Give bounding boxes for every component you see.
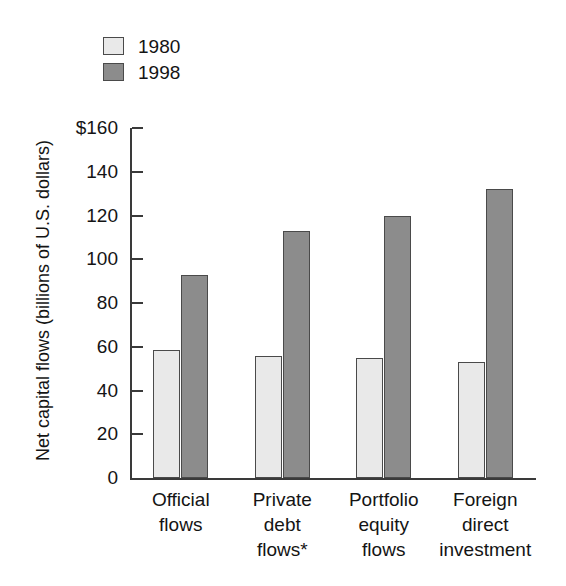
y-axis-tick-label: 40 [8,381,118,400]
x-axis-label-line: flows [333,537,435,562]
bar-1998-0 [181,275,208,478]
x-axis-label-0: Officialflows [130,487,232,537]
y-axis-tick-label: 80 [8,293,118,312]
bar-1980-1 [255,356,282,479]
bar-group [356,128,411,478]
legend-swatch-1998-icon [103,63,124,81]
bar-group [255,128,310,478]
bar-group [153,128,208,478]
y-axis-tick-label: 140 [8,162,118,181]
legend-item-1998: 1998 [103,59,283,85]
x-axis-label-line: Foreign [435,487,537,512]
x-axis-category-labels: OfficialflowsPrivatedebtflows*Portfolioe… [130,487,536,583]
x-axis-label-line: flows* [232,537,334,562]
y-axis-tick-label: $160 [8,118,118,137]
x-axis-label-line: Official [130,487,232,512]
x-axis-label-1: Privatedebtflows* [232,487,334,562]
y-axis-tick-label: 0 [8,468,118,487]
bar-1980-2 [356,358,383,478]
x-axis-label-line: flows [130,512,232,537]
y-axis-tick-label: 60 [8,337,118,356]
x-axis-label-3: Foreigndirectinvestment [435,487,537,562]
bar-1998-3 [486,189,513,478]
y-axis-tick-label: 120 [8,206,118,225]
x-axis-label-line: debt [232,512,334,537]
chart-legend: 1980 1998 [103,33,283,85]
x-axis-label-line: Private [232,487,334,512]
y-axis-tick-label: 20 [8,424,118,443]
bar-1980-0 [153,350,180,478]
x-axis-label-line: equity [333,512,435,537]
x-axis-label-2: Portfolioequityflows [333,487,435,562]
bar-1998-1 [283,231,310,478]
bar-chart: 1980 1998 Net capital flows (billions of… [0,0,566,586]
legend-swatch-1980-icon [103,37,124,55]
bar-series-container [130,128,536,478]
legend-label-1998: 1998 [138,63,180,82]
x-axis-label-line: direct [435,512,537,537]
x-axis-label-line: investment [435,537,537,562]
x-axis-label-line: Portfolio [333,487,435,512]
legend-item-1980: 1980 [103,33,283,59]
x-axis-line [130,478,536,480]
plot-area: 020406080100120140$160 [130,128,536,478]
bar-group [458,128,513,478]
bar-1980-3 [458,362,485,478]
y-axis-tick-label: 100 [8,249,118,268]
legend-label-1980: 1980 [138,37,180,56]
bar-1998-2 [384,216,411,479]
